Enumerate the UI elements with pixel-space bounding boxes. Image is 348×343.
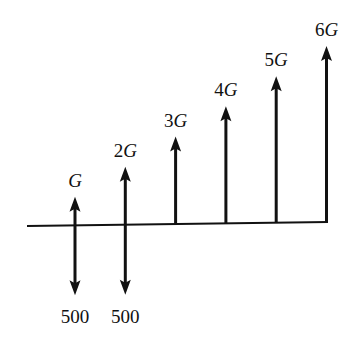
downward-cash-flows: 500500 — [61, 225, 140, 328]
time-axis — [27, 222, 328, 226]
label-symbol: G — [324, 19, 338, 40]
up-arrow-label: 5G — [265, 49, 289, 70]
label-coefficient: 6 — [315, 19, 325, 40]
up-arrow-label: 3G — [164, 110, 188, 131]
up-arrow-label: G — [68, 170, 82, 191]
upward-cash-flows: G2G3G4G5G6G — [68, 19, 338, 225]
label-symbol: G — [224, 79, 238, 100]
label-coefficient: 3 — [164, 110, 174, 131]
down-arrow-2: 500 — [111, 225, 140, 327]
up-arrow-6: 6G — [315, 19, 339, 222]
up-arrow-2: 2G — [114, 140, 138, 225]
up-arrow-3: 3G — [164, 110, 188, 225]
down-arrow-label: 500 — [61, 306, 90, 327]
cash-flow-diagram: G2G3G4G5G6G 500500 — [0, 0, 348, 343]
label-coefficient: 5 — [265, 49, 275, 70]
up-arrow-label: 4G — [214, 79, 238, 100]
down-arrow-1: 500 — [61, 225, 90, 327]
up-arrow-label: 6G — [315, 19, 339, 40]
label-coefficient: 2 — [114, 140, 124, 161]
up-arrow-4: 4G — [214, 79, 238, 223]
up-arrow-1: G — [68, 170, 82, 226]
up-arrow-label: 2G — [114, 140, 138, 161]
down-arrow-label: 500 — [111, 306, 140, 327]
label-coefficient: 4 — [214, 79, 224, 100]
label-symbol: G — [123, 140, 137, 161]
label-symbol: G — [68, 170, 82, 191]
up-arrow-5: 5G — [265, 49, 289, 223]
label-symbol: G — [274, 49, 288, 70]
label-symbol: G — [173, 110, 187, 131]
